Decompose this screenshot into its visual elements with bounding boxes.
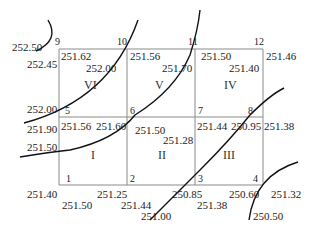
elevation-label: 251.28: [163, 135, 193, 146]
elevation-label: 251.44: [197, 121, 227, 132]
elevation-label: 251.40: [27, 189, 57, 200]
corner-number: 3: [198, 174, 203, 184]
region-label: IV: [224, 79, 237, 91]
elevation-label: 251.50: [62, 200, 92, 211]
corner-number: 8: [248, 106, 253, 116]
corner-number: 1: [66, 174, 71, 184]
elevation-label: 251.40: [229, 63, 259, 74]
region-label: II: [158, 149, 166, 161]
elevation-label: 251.32: [271, 189, 301, 200]
corner-number: 12: [254, 37, 264, 47]
corner-number: 5: [65, 106, 70, 116]
elevation-label: 250.50: [253, 211, 283, 222]
elevation-label: 251.50: [135, 125, 165, 136]
corner-number: 9: [55, 37, 60, 47]
elevation-label: 251.62: [61, 51, 91, 62]
region-label: V: [155, 79, 164, 91]
corner-number: 11: [188, 37, 198, 47]
elevation-label: 251.60: [96, 121, 126, 132]
elevation-label: 252.50: [12, 42, 42, 53]
elevation-label: 251.46: [266, 51, 296, 62]
elevation-label: 251.38: [197, 200, 227, 211]
elevation-label: 251.56: [61, 121, 91, 132]
elevation-label: 252.00: [27, 104, 57, 115]
elevation-label: 250.95: [231, 121, 261, 132]
corner-number: 7: [198, 106, 203, 116]
elevation-label: 250.60: [229, 189, 259, 200]
elevation-label: 251.56: [130, 51, 160, 62]
region-label: VI: [84, 79, 97, 91]
elevation-label: 251.90: [27, 124, 57, 135]
corner-number: 10: [117, 37, 127, 47]
corner-number: 6: [130, 106, 135, 116]
elevation-label: 252.45: [27, 59, 57, 70]
elevation-label: 252.00: [86, 63, 116, 74]
elevation-label: 251.38: [264, 121, 294, 132]
region-label: III: [223, 149, 235, 161]
elevation-label: 251.00: [141, 211, 171, 222]
region-label: I: [91, 149, 95, 161]
elevation-label: 251.50: [201, 51, 231, 62]
elevation-label: 251.70: [162, 63, 192, 74]
corner-number: 4: [253, 174, 258, 184]
corner-number: 2: [130, 174, 135, 184]
elevation-label: 251.50: [27, 142, 57, 153]
